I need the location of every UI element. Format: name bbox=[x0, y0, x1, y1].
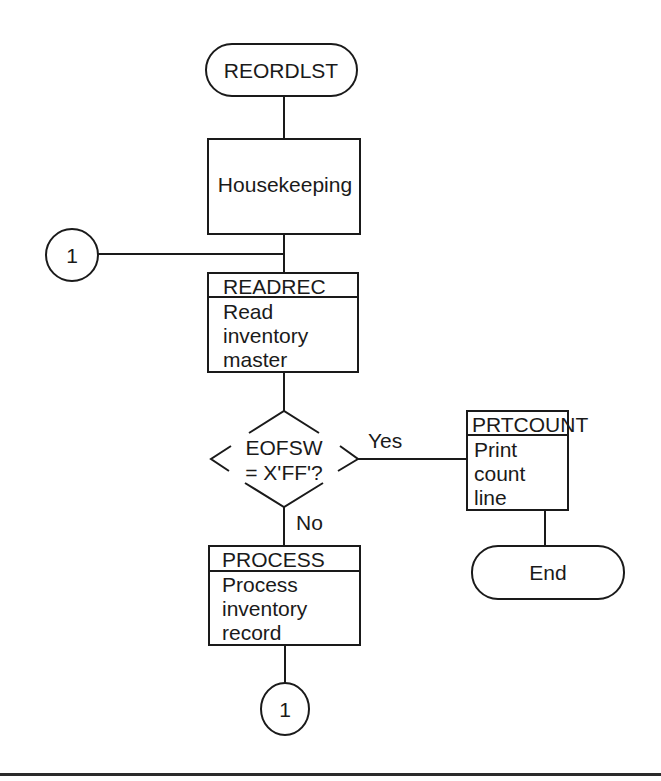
process-box: PROCESS Process inventory record bbox=[209, 546, 360, 645]
process-module: PROCESS bbox=[222, 548, 325, 571]
end-terminal: End bbox=[472, 546, 624, 599]
prtcount-line-2: count bbox=[474, 462, 526, 485]
page-bottom-rule bbox=[0, 773, 661, 776]
readrec-line-3: master bbox=[223, 348, 287, 371]
start-terminal: REORDLST bbox=[206, 44, 357, 96]
no-label: No bbox=[296, 511, 323, 534]
connector-in: 1 bbox=[46, 229, 98, 281]
decision-line-1: EOFSW bbox=[246, 436, 323, 459]
start-label: REORDLST bbox=[224, 59, 339, 82]
readrec-module: READREC bbox=[223, 275, 326, 298]
decision-line-2: = X'FF'? bbox=[245, 461, 322, 484]
connector-in-label: 1 bbox=[66, 244, 78, 267]
process-line-2: inventory bbox=[222, 597, 308, 620]
process-line-1: Process bbox=[222, 573, 298, 596]
connector-out: 1 bbox=[261, 683, 309, 735]
process-line-3: record bbox=[222, 621, 282, 644]
prtcount-line-1: Print bbox=[474, 438, 517, 461]
end-label: End bbox=[529, 561, 566, 584]
prtcount-module: PRTCOUNT bbox=[472, 413, 588, 436]
readrec-line-2: inventory bbox=[223, 324, 309, 347]
prtcount-line-3: line bbox=[474, 486, 507, 509]
housekeeping-box: Housekeeping bbox=[208, 139, 360, 234]
readrec-line-1: Read bbox=[223, 300, 273, 323]
eof-decision: EOFSW = X'FF'? bbox=[211, 411, 358, 507]
readrec-box: READREC Read inventory master bbox=[208, 273, 358, 372]
prtcount-box: PRTCOUNT Print count line bbox=[467, 411, 588, 510]
housekeeping-label: Housekeeping bbox=[218, 173, 352, 196]
yes-label: Yes bbox=[368, 429, 402, 452]
connector-out-label: 1 bbox=[279, 698, 291, 721]
